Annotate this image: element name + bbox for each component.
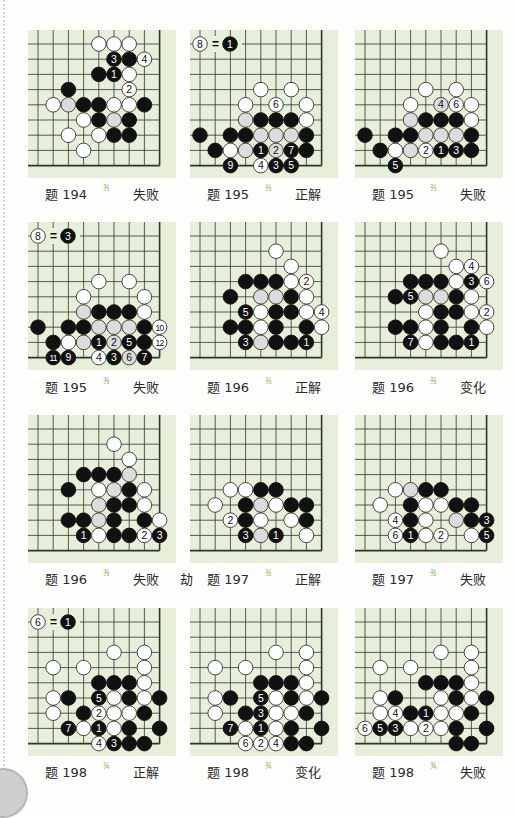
black-stone	[238, 128, 253, 143]
svg-text:2: 2	[303, 275, 309, 287]
black-stone	[269, 320, 284, 335]
equation-right-stone: 3	[61, 229, 76, 244]
go-diagram-11: 5371624	[190, 608, 338, 756]
diagram-fraction: ³⁄₃	[103, 376, 109, 386]
white-stone	[373, 660, 388, 675]
black-stone-7: 7	[284, 143, 299, 158]
white-stone	[107, 483, 122, 498]
black-stone-3: 3	[464, 274, 479, 289]
white-stone	[92, 498, 107, 513]
svg-text:1: 1	[227, 38, 233, 50]
black-stone-1: 1	[403, 528, 418, 543]
problem-number: 题 198	[207, 762, 249, 781]
black-stone	[269, 305, 284, 320]
white-stone	[76, 113, 91, 128]
svg-text:5: 5	[408, 290, 414, 302]
result-label: 失败	[133, 377, 159, 396]
svg-text:1: 1	[96, 336, 102, 348]
black-stone	[107, 305, 122, 320]
diagram-caption: 题 197¹⁄₂正解	[207, 569, 367, 589]
white-stone	[76, 305, 91, 320]
white-stone	[46, 706, 61, 721]
white-stone	[122, 467, 137, 482]
diagram-fraction: ²⁄₃	[430, 376, 436, 386]
black-stone	[61, 320, 76, 335]
go-board: 101251211943678=3	[28, 222, 176, 370]
black-stone	[193, 128, 208, 143]
white-stone	[299, 691, 314, 706]
white-stone	[61, 98, 76, 113]
problem-number: 题 194	[45, 184, 87, 203]
white-stone	[107, 113, 122, 128]
svg-text:1: 1	[111, 68, 117, 80]
white-stone	[152, 513, 167, 528]
white-stone-2: 2	[137, 528, 152, 543]
black-stone	[223, 290, 238, 305]
white-stone	[284, 82, 299, 97]
white-stone-2: 2	[299, 274, 314, 289]
white-stone	[76, 143, 91, 158]
svg-text:3: 3	[111, 351, 117, 363]
white-stone	[434, 128, 449, 143]
svg-text:4: 4	[273, 737, 279, 749]
white-stone	[419, 513, 434, 528]
black-stone	[76, 320, 91, 335]
result-label: 正解	[295, 569, 321, 588]
svg-text:5: 5	[243, 306, 249, 318]
svg-text:6: 6	[484, 275, 490, 287]
go-board: 462135	[355, 30, 503, 178]
white-stone-2: 2	[254, 736, 269, 751]
white-stone	[449, 513, 464, 528]
white-stone	[76, 335, 91, 350]
white-stone	[464, 645, 479, 660]
white-stone-4: 4	[388, 706, 403, 721]
white-stone	[403, 483, 418, 498]
go-diagram-8: 231	[190, 415, 338, 563]
white-stone	[46, 660, 61, 675]
svg-text:2: 2	[484, 306, 490, 318]
diagram-fraction: ²⁄₃	[430, 183, 436, 193]
white-stone	[254, 320, 269, 335]
black-stone	[254, 676, 269, 691]
black-stone	[46, 335, 61, 350]
black-stone-3: 3	[238, 335, 253, 350]
white-stone-6: 6	[388, 528, 403, 543]
white-stone	[76, 290, 91, 305]
black-stone	[92, 467, 107, 482]
black-stone-3: 3	[238, 528, 253, 543]
black-stone	[61, 691, 76, 706]
go-diagram-4: 101251211943678=3	[28, 222, 176, 370]
problem-number: 题 198	[45, 762, 87, 781]
svg-text:6: 6	[362, 722, 368, 734]
black-stone	[419, 676, 434, 691]
white-stone	[208, 660, 223, 675]
black-stone	[284, 335, 299, 350]
white-stone	[299, 645, 314, 660]
go-diagram-9: 436125	[355, 415, 503, 563]
black-stone-3: 3	[254, 706, 269, 721]
go-board: 123	[28, 415, 176, 563]
go-board: 5271436=1	[28, 608, 176, 756]
white-stone	[107, 437, 122, 452]
white-stone	[434, 691, 449, 706]
white-stone	[122, 320, 137, 335]
white-stone-4: 4	[254, 158, 269, 173]
black-stone	[373, 143, 388, 158]
equation-right-stone: 1	[61, 615, 76, 630]
black-stone	[238, 513, 253, 528]
white-stone	[122, 37, 137, 52]
svg-text:2: 2	[423, 722, 429, 734]
white-stone-6: 6	[449, 98, 464, 113]
black-stone	[122, 736, 137, 751]
black-stone	[107, 467, 122, 482]
black-stone-9: 9	[223, 158, 238, 173]
white-stone	[464, 290, 479, 305]
white-stone	[269, 645, 284, 660]
white-stone	[419, 128, 434, 143]
black-stone	[61, 513, 76, 528]
svg-text:5: 5	[288, 159, 294, 171]
black-stone	[284, 290, 299, 305]
go-diagram-2: 612794358=1	[190, 30, 338, 178]
svg-text:10: 10	[155, 323, 164, 333]
white-stone-2: 2	[107, 335, 122, 350]
